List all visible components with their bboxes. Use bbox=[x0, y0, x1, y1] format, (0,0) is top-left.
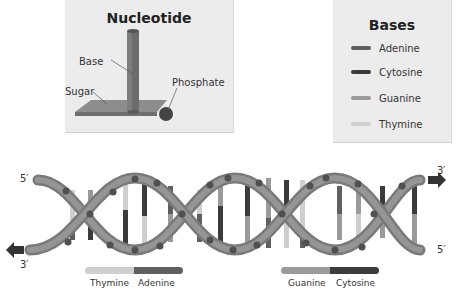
adenine-swatch bbox=[351, 46, 371, 50]
pair-label-thymine: Thymine bbox=[90, 278, 129, 288]
base-pair-thymine-adenine bbox=[85, 267, 183, 274]
pair-label-cytosine: Cytosine bbox=[336, 278, 375, 288]
legend-item-guanine: Guanine bbox=[351, 91, 421, 105]
strand-left-top-label: 5′ bbox=[20, 173, 29, 184]
base-label: Base bbox=[79, 56, 103, 67]
cytosine-swatch bbox=[351, 70, 371, 74]
legend-label: Adenine bbox=[379, 43, 420, 54]
strand-right-top-label: 3′ bbox=[437, 165, 446, 176]
pair-label-guanine: Guanine bbox=[288, 278, 326, 288]
phosphate-label: Phosphate bbox=[172, 77, 225, 88]
nucleotide-panel: Nucleotide Base Sugar Phosphate bbox=[65, 0, 234, 133]
legend-label: Thymine bbox=[379, 119, 422, 130]
strand-right-bottom-label: 5′ bbox=[437, 244, 446, 255]
pair-label-adenine: Adenine bbox=[138, 278, 175, 288]
bases-legend-title: Bases bbox=[333, 17, 451, 33]
strand-left-bottom-label: 3′ bbox=[20, 259, 29, 270]
legend-label: Guanine bbox=[379, 93, 421, 104]
legend-item-adenine: Adenine bbox=[351, 41, 420, 55]
bases-legend-panel: Bases Adenine Cytosine Guanine Thymine bbox=[333, 0, 452, 143]
legend-label: Cytosine bbox=[379, 67, 422, 78]
base-pair-guanine-cytosine bbox=[281, 267, 379, 274]
guanine-swatch bbox=[351, 96, 371, 100]
legend-item-thymine: Thymine bbox=[351, 117, 422, 131]
dna-double-helix bbox=[0, 150, 460, 260]
thymine-swatch bbox=[351, 122, 371, 126]
arrow-left-icon bbox=[6, 242, 24, 258]
legend-item-cytosine: Cytosine bbox=[351, 65, 422, 79]
sugar-label: Sugar bbox=[65, 86, 94, 97]
